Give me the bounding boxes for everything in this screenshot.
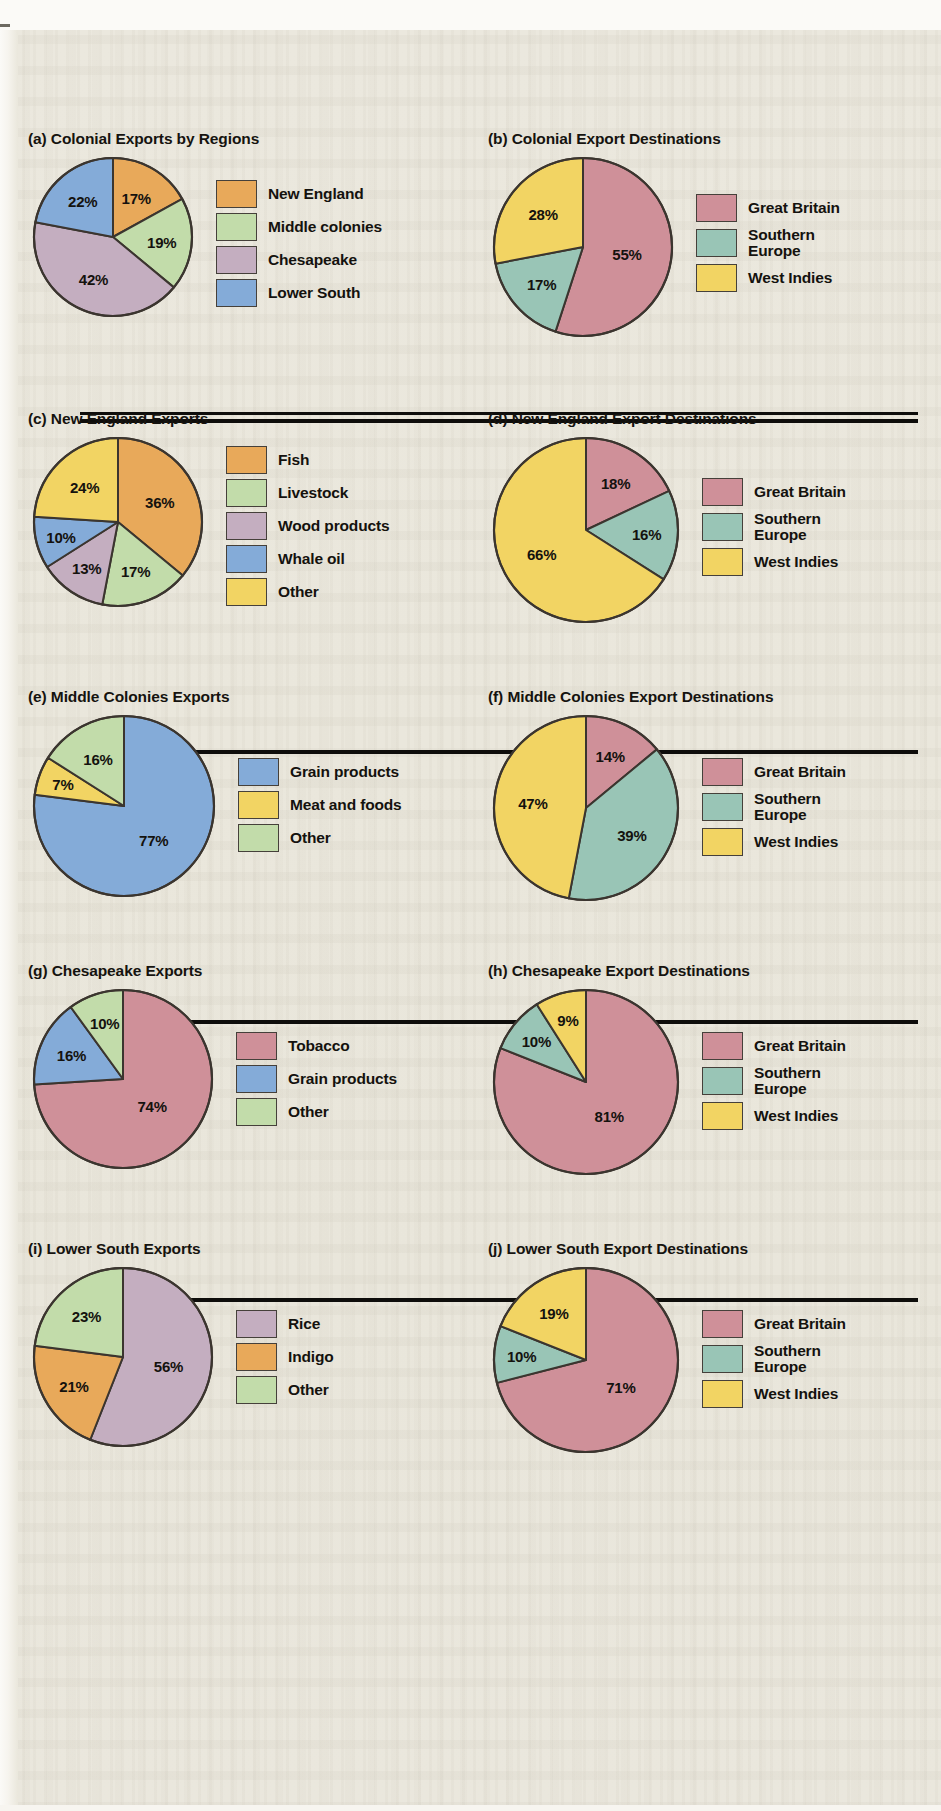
legend-swatch-d-2	[702, 548, 743, 576]
legend-swatch-c-2	[226, 512, 267, 540]
pie-value-label-d-2: 66%	[527, 546, 556, 563]
legend-label-i-2: Other	[288, 1382, 329, 1398]
legend-item-f-0[interactable]: Great Britain	[702, 758, 846, 786]
legend-item-j-0[interactable]: Great Britain	[702, 1310, 846, 1338]
legend-label-i-1: Indigo	[288, 1349, 334, 1365]
legend-item-f-1[interactable]: Southern Europe	[702, 791, 846, 823]
pie-panel-j: (j) Lower South Export Destinations71%10…	[488, 1240, 846, 1458]
legend-item-c-0[interactable]: Fish	[226, 446, 389, 474]
legend-g: TobaccoGrain productsOther	[236, 1032, 397, 1131]
legend-item-g-0[interactable]: Tobacco	[236, 1032, 397, 1060]
legend-label-c-2: Wood products	[278, 518, 389, 534]
legend-swatch-f-2	[702, 828, 743, 856]
panel-body-j: 71%10%19%Great BritainSouthern EuropeWes…	[488, 1262, 846, 1458]
pie-value-label-f-2: 47%	[518, 795, 547, 812]
pie-panel-e: (e) Middle Colonies Exports77%7%16%Grain…	[28, 688, 402, 902]
legend-label-f-1: Southern Europe	[754, 791, 821, 823]
pie-chart-e: 77%7%16%	[28, 710, 220, 902]
legend-item-h-1[interactable]: Southern Europe	[702, 1065, 846, 1097]
legend-item-e-1[interactable]: Meat and foods	[238, 791, 402, 819]
legend-swatch-a-2	[216, 246, 257, 274]
legend-swatch-i-0	[236, 1310, 277, 1338]
pie-value-label-b-0: 55%	[612, 246, 641, 263]
pie-value-label-a-2: 42%	[79, 270, 108, 287]
legend-item-c-1[interactable]: Livestock	[226, 479, 389, 507]
legend-item-c-4[interactable]: Other	[226, 578, 389, 606]
legend-item-h-2[interactable]: West Indies	[702, 1102, 846, 1130]
legend-item-a-0[interactable]: New England	[216, 180, 382, 208]
pie-value-label-d-0: 18%	[601, 475, 630, 492]
pie-value-label-h-2: 9%	[557, 1012, 578, 1029]
legend-item-b-0[interactable]: Great Britain	[696, 194, 840, 222]
legend-label-g-0: Tobacco	[288, 1038, 350, 1054]
legend-label-f-0: Great Britain	[754, 764, 846, 780]
legend-swatch-j-0	[702, 1310, 743, 1338]
legend-item-f-2[interactable]: West Indies	[702, 828, 846, 856]
legend-label-g-2: Other	[288, 1104, 329, 1120]
panel-body-c: 36%17%13%10%24%FishLivestockWood product…	[28, 432, 389, 612]
legend-h: Great BritainSouthern EuropeWest Indies	[702, 1032, 846, 1135]
legend-d: Great BritainSouthern EuropeWest Indies	[702, 478, 846, 581]
legend-label-j-0: Great Britain	[754, 1316, 846, 1332]
panel-title-e: (e) Middle Colonies Exports	[28, 688, 402, 706]
legend-item-d-0[interactable]: Great Britain	[702, 478, 846, 506]
legend-swatch-h-0	[702, 1032, 743, 1060]
legend-swatch-e-0	[238, 758, 279, 786]
legend-label-e-0: Grain products	[290, 764, 399, 780]
legend-item-i-2[interactable]: Other	[236, 1376, 334, 1404]
panel-title-i: (i) Lower South Exports	[28, 1240, 334, 1258]
legend-item-d-1[interactable]: Southern Europe	[702, 511, 846, 543]
legend-item-h-0[interactable]: Great Britain	[702, 1032, 846, 1060]
legend-item-j-1[interactable]: Southern Europe	[702, 1343, 846, 1375]
legend-item-i-1[interactable]: Indigo	[236, 1343, 334, 1371]
legend-item-a-2[interactable]: Chesapeake	[216, 246, 382, 274]
legend-item-e-2[interactable]: Other	[238, 824, 402, 852]
legend-item-e-0[interactable]: Grain products	[238, 758, 402, 786]
legend-item-j-2[interactable]: West Indies	[702, 1380, 846, 1408]
legend-item-i-0[interactable]: Rice	[236, 1310, 334, 1338]
legend-item-c-2[interactable]: Wood products	[226, 512, 389, 540]
legend-item-g-2[interactable]: Other	[236, 1098, 397, 1126]
legend-swatch-c-0	[226, 446, 267, 474]
pie-value-label-b-2: 28%	[528, 206, 557, 223]
legend-item-a-1[interactable]: Middle colonies	[216, 213, 382, 241]
pie-value-label-c-0: 36%	[145, 494, 174, 511]
legend-label-a-3: Lower South	[268, 285, 360, 301]
legend-item-b-1[interactable]: Southern Europe	[696, 227, 840, 259]
legend-swatch-f-1	[702, 793, 743, 821]
pie-svg-b	[488, 152, 678, 342]
pie-value-label-e-0: 77%	[139, 831, 168, 848]
panel-title-d: (d) New England Export Destinations	[488, 410, 846, 428]
legend-swatch-a-3	[216, 279, 257, 307]
legend-swatch-d-0	[702, 478, 743, 506]
pie-svg-g	[28, 984, 218, 1174]
legend-swatch-c-3	[226, 545, 267, 573]
pie-chart-f: 14%39%47%	[488, 710, 684, 906]
legend-item-g-1[interactable]: Grain products	[236, 1065, 397, 1093]
panel-title-g: (g) Chesapeake Exports	[28, 962, 397, 980]
legend-c: FishLivestockWood productsWhale oilOther	[226, 446, 389, 611]
panel-body-d: 18%16%66%Great BritainSouthern EuropeWes…	[488, 432, 846, 628]
pie-value-label-b-1: 17%	[527, 275, 556, 292]
pie-value-label-d-1: 16%	[632, 525, 661, 542]
panel-title-a: (a) Colonial Exports by Regions	[28, 130, 382, 148]
legend-i: RiceIndigoOther	[236, 1310, 334, 1409]
legend-item-b-2[interactable]: West Indies	[696, 264, 840, 292]
legend-label-a-0: New England	[268, 186, 364, 202]
pie-chart-j: 71%10%19%	[488, 1262, 684, 1458]
panel-title-j: (j) Lower South Export Destinations	[488, 1240, 846, 1258]
panel-title-h: (h) Chesapeake Export Destinations	[488, 962, 846, 980]
legend-label-b-1: Southern Europe	[748, 227, 815, 259]
panel-title-b: (b) Colonial Export Destinations	[488, 130, 840, 148]
pie-svg-c	[28, 432, 208, 612]
legend-label-b-0: Great Britain	[748, 200, 840, 216]
legend-swatch-b-2	[696, 264, 737, 292]
pie-chart-d: 18%16%66%	[488, 432, 684, 628]
legend-label-h-1: Southern Europe	[754, 1065, 821, 1097]
legend-swatch-h-2	[702, 1102, 743, 1130]
panel-body-f: 14%39%47%Great BritainSouthern EuropeWes…	[488, 710, 846, 906]
legend-item-a-3[interactable]: Lower South	[216, 279, 382, 307]
legend-item-c-3[interactable]: Whale oil	[226, 545, 389, 573]
legend-label-h-0: Great Britain	[754, 1038, 846, 1054]
legend-item-d-2[interactable]: West Indies	[702, 548, 846, 576]
